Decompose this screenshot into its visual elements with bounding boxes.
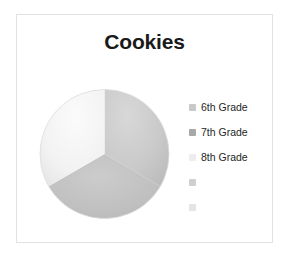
legend-label: 8th Grade (201, 152, 248, 163)
chart-title: Cookies (17, 30, 272, 54)
legend-item-empty-2[interactable] (189, 195, 271, 220)
legend-label: 7th Grade (201, 127, 248, 138)
legend-label: 6th Grade (201, 102, 248, 113)
legend-item-7th-grade[interactable]: 7th Grade (189, 120, 271, 145)
legend-item-empty-1[interactable] (189, 170, 271, 195)
legend-swatch-icon (189, 179, 196, 186)
legend-swatch-icon (189, 104, 196, 111)
legend-swatch-icon (189, 154, 196, 161)
legend-item-8th-grade[interactable]: 8th Grade (189, 145, 271, 170)
chart-legend: 6th Grade 7th Grade 8th Grade (189, 95, 271, 220)
pie-chart (38, 88, 171, 220)
chart-frame: Cookies (16, 14, 273, 243)
pie-chart-plot-area (38, 88, 171, 220)
legend-swatch-icon (189, 204, 196, 211)
legend-item-6th-grade[interactable]: 6th Grade (189, 95, 271, 120)
legend-swatch-icon (189, 129, 196, 136)
